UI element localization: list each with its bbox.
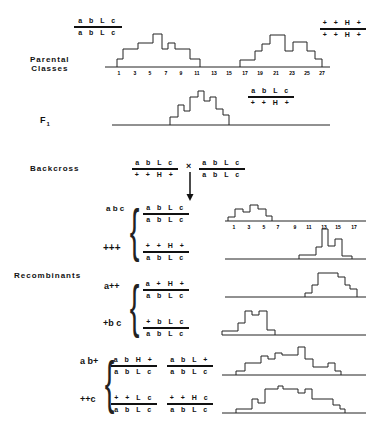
parental-label-line2: Classes [30, 64, 70, 73]
genotype-f1: a b L c + + H + [248, 86, 294, 107]
genotype-backcross-a: a b L c + + H + [132, 158, 178, 179]
histogram-f1 [170, 91, 229, 125]
genotype-top: + b L c [143, 317, 189, 329]
genotype-abp-2: a b L + a b L c [167, 355, 213, 376]
tick-label: 9 [180, 70, 183, 76]
genotype-bottom: a b L c [74, 28, 122, 37]
genotype-top: a b L + [167, 355, 213, 367]
parental-label-line1: Parental [30, 55, 70, 64]
tick-label: 1 [233, 224, 236, 230]
genotype-pbc: + b L c a b L c [143, 317, 189, 338]
tick-label: 15 [226, 70, 232, 76]
genotype-ppc-2: + + H c a b L c [167, 393, 213, 414]
tick-label: 3 [248, 224, 251, 230]
genotype-top: a b H + [111, 355, 157, 367]
genotype-top: + + H + [320, 18, 366, 30]
tick-label: 3 [134, 70, 137, 76]
class-label-app: a++ [104, 281, 120, 291]
tick-label: 7 [277, 224, 280, 230]
tick-label: 19 [257, 70, 263, 76]
histogram-ppp [299, 229, 352, 259]
genotype-parent-right: + + H + + + H + [320, 18, 366, 39]
genotype-bottom: a b L c [143, 215, 189, 224]
tick-label: 27 [319, 70, 325, 76]
histogram-app [305, 273, 357, 297]
tick-label: 5 [263, 224, 266, 230]
genotype-bottom: + + H + [248, 98, 294, 107]
genotype-app: a + H + a b L c [143, 279, 189, 300]
genotype-top: + + H c [167, 393, 213, 405]
genotype-bottom: a b L c [167, 405, 213, 414]
genotype-bottom: a b L c [167, 367, 213, 376]
genotype-bottom: a b L c [111, 367, 157, 376]
tick-label: 9 [294, 224, 297, 230]
genotype-top: a + H + [143, 279, 189, 291]
genotype-top: + + L c [111, 393, 157, 405]
histogram-pbc [222, 311, 275, 335]
tick-label: 5 [149, 70, 152, 76]
tick-label: 23 [289, 70, 295, 76]
genotype-top: a b L c [199, 158, 245, 170]
class-label-ppp: +++ [103, 242, 121, 253]
genotype-abp-1: a b H + a b L c [111, 355, 157, 376]
tick-label: 15 [335, 224, 341, 230]
recombinants-label: Recombinants [14, 271, 81, 280]
tick-label: 17 [351, 224, 357, 230]
genotype-ppc-1: + + L c a b L c [111, 393, 157, 414]
genotype-bottom: a b L c [199, 170, 245, 179]
tick-label: 11 [306, 224, 312, 230]
genotype-bottom: a b L c [143, 291, 189, 300]
f1-label-sub: 1 [47, 121, 51, 127]
histogram-abc [228, 205, 272, 221]
tick-label: 7 [165, 70, 168, 76]
parental-classes-label: Parental Classes [30, 55, 70, 73]
genotype-top: a b L c [248, 86, 294, 98]
tick-label: 11 [194, 70, 200, 76]
histogram-parent_right [240, 35, 322, 67]
genotype-top: a b L c [132, 158, 178, 170]
genotype-top: a b L c [143, 203, 189, 215]
arrow-head-icon [187, 194, 194, 201]
brace-recombinants-1: { [130, 272, 140, 339]
genotype-backcross-b: a b L c a b L c [199, 158, 245, 179]
histogram-abp [236, 347, 341, 375]
histogram-parent_left [117, 34, 200, 67]
class-label-abp: a b+ [80, 356, 98, 366]
genotype-top: + + H + [143, 241, 189, 253]
tick-label: 21 [273, 70, 279, 76]
genotype-abc: a b L c a b L c [143, 203, 189, 224]
cross-symbol: × [186, 161, 191, 171]
tick-label: 25 [304, 70, 310, 76]
genotype-top: a b L c [74, 16, 122, 28]
tick-label: 13 [211, 70, 217, 76]
genotype-bottom: + + H + [132, 170, 178, 179]
genotype-ppp: + + H + a b L c [143, 241, 189, 262]
class-label-pbc: +b c [103, 318, 121, 328]
brace-backcross: { [130, 196, 140, 263]
tick-label: 17 [242, 70, 248, 76]
class-label-abc: a b c [106, 204, 124, 213]
histogram-ppc [236, 386, 345, 413]
tick-label: 1 [118, 70, 121, 76]
genotype-bottom: a b L c [143, 253, 189, 262]
backcross-label: Backcross [30, 164, 79, 173]
genotype-parent-left: a b L c a b L c [74, 16, 122, 37]
genotype-bottom: a b L c [111, 405, 157, 414]
f1-label: F1 [40, 115, 51, 127]
class-label-ppc: ++c [80, 394, 96, 404]
genotype-bottom: + + H + [320, 30, 366, 39]
genotype-bottom: a b L c [143, 329, 189, 338]
